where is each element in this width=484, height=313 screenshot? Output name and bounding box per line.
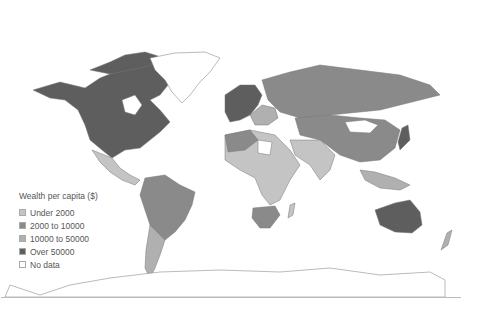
legend: Wealth per capita ($) Under 2000 2000 to…	[19, 191, 98, 272]
swatch	[19, 209, 26, 216]
legend-label: Under 2000	[30, 208, 74, 218]
legend-label: 10000 to 50000	[30, 234, 89, 244]
legend-title: Wealth per capita ($)	[19, 191, 98, 201]
region-madagascar	[288, 203, 295, 218]
region-north-america	[33, 60, 172, 158]
legend-label: Over 50000	[30, 247, 74, 257]
region-antarctica	[5, 268, 445, 297]
legend-item-2000-10000: 2000 to 10000	[19, 220, 98, 231]
region-japan	[398, 125, 410, 150]
legend-item-under-2000: Under 2000	[19, 207, 98, 218]
legend-label: No data	[30, 260, 60, 270]
swatch	[19, 222, 26, 229]
region-australia	[375, 200, 422, 233]
region-libya	[258, 140, 272, 155]
region-south-america	[140, 175, 195, 240]
region-russia	[262, 65, 440, 118]
region-southeast-asia	[360, 170, 410, 190]
map-baseline	[1, 297, 461, 298]
swatch	[19, 261, 26, 268]
swatch	[19, 248, 26, 255]
legend-item-no-data: No data	[19, 259, 98, 270]
region-new-zealand	[441, 230, 452, 250]
legend-item-over-50000: Over 50000	[19, 246, 98, 257]
region-southern-africa	[252, 206, 280, 228]
swatch	[19, 235, 26, 242]
legend-label: 2000 to 10000	[30, 221, 84, 231]
legend-item-10000-50000: 10000 to 50000	[19, 233, 98, 244]
